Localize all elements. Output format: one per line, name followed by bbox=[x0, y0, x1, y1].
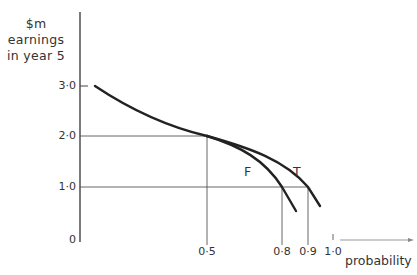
y-tick-label-2: 2·0 bbox=[46, 129, 76, 142]
y-label-unit: $m bbox=[0, 16, 72, 32]
curve-label-f: F bbox=[244, 164, 251, 179]
x-axis-arrow-icon bbox=[408, 238, 414, 242]
y-tick-label-0: 0 bbox=[46, 233, 76, 246]
x-tick-label-10: 1·0 bbox=[318, 245, 348, 258]
x-tick-label-05: 0·5 bbox=[192, 245, 222, 258]
y-tick-label-3: 3·0 bbox=[46, 79, 76, 92]
curve-t bbox=[207, 136, 320, 206]
curve-shared-segment bbox=[95, 86, 207, 136]
y-axis-label: $m earnings in year 5 bbox=[0, 16, 72, 64]
curve-label-t: T bbox=[293, 164, 301, 179]
y-label-line2: earnings bbox=[0, 32, 72, 48]
y-tick-label-1: 1·0 bbox=[46, 180, 76, 193]
y-label-line3: in year 5 bbox=[0, 48, 72, 64]
x-axis-label: probability bbox=[345, 253, 412, 268]
curve-f bbox=[207, 136, 296, 211]
